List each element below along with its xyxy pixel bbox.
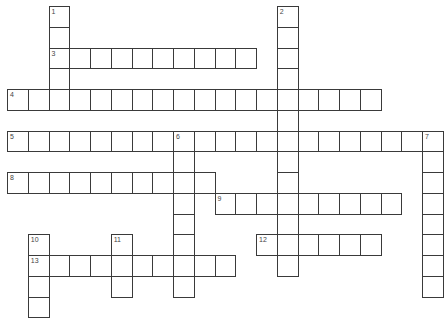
- crossword-cell[interactable]: 6: [173, 131, 195, 153]
- crossword-cell[interactable]: [132, 48, 154, 70]
- crossword-cell[interactable]: 12: [256, 234, 278, 256]
- crossword-cell[interactable]: [339, 234, 361, 256]
- crossword-cell[interactable]: [422, 234, 444, 256]
- crossword-cell[interactable]: 8: [7, 172, 29, 194]
- crossword-cell[interactable]: [318, 234, 340, 256]
- crossword-cell[interactable]: [90, 172, 112, 194]
- crossword-cell[interactable]: [256, 89, 278, 111]
- crossword-cell[interactable]: 13: [28, 255, 50, 277]
- crossword-cell[interactable]: [152, 131, 174, 153]
- crossword-cell[interactable]: [90, 89, 112, 111]
- crossword-cell[interactable]: [90, 131, 112, 153]
- crossword-cell[interactable]: [215, 131, 237, 153]
- crossword-cell[interactable]: [173, 214, 195, 236]
- crossword-cell[interactable]: [298, 234, 320, 256]
- crossword-cell[interactable]: [69, 89, 91, 111]
- crossword-cell[interactable]: [28, 89, 50, 111]
- crossword-cell[interactable]: 9: [215, 193, 237, 215]
- crossword-cell[interactable]: [256, 131, 278, 153]
- crossword-cell[interactable]: [194, 48, 216, 70]
- crossword-cell[interactable]: [256, 193, 278, 215]
- crossword-cell[interactable]: [173, 255, 195, 277]
- crossword-cell[interactable]: [173, 276, 195, 298]
- crossword-cell[interactable]: [360, 131, 382, 153]
- crossword-cell[interactable]: [235, 89, 257, 111]
- crossword-cell[interactable]: [422, 172, 444, 194]
- crossword-cell[interactable]: [69, 255, 91, 277]
- crossword-cell[interactable]: [339, 193, 361, 215]
- crossword-cell[interactable]: 2: [277, 6, 299, 28]
- crossword-cell[interactable]: [298, 131, 320, 153]
- crossword-cell[interactable]: [381, 131, 403, 153]
- crossword-cell[interactable]: [132, 89, 154, 111]
- crossword-cell[interactable]: [194, 131, 216, 153]
- crossword-cell[interactable]: [194, 172, 216, 194]
- crossword-cell[interactable]: [173, 234, 195, 256]
- crossword-cell[interactable]: [339, 89, 361, 111]
- crossword-cell[interactable]: [173, 151, 195, 173]
- crossword-cell[interactable]: [152, 89, 174, 111]
- crossword-cell[interactable]: 4: [7, 89, 29, 111]
- crossword-cell[interactable]: [111, 48, 133, 70]
- crossword-cell[interactable]: [173, 172, 195, 194]
- crossword-cell[interactable]: [422, 151, 444, 173]
- crossword-cell[interactable]: [277, 48, 299, 70]
- crossword-cell[interactable]: [360, 234, 382, 256]
- crossword-cell[interactable]: [49, 89, 71, 111]
- crossword-cell[interactable]: [298, 89, 320, 111]
- crossword-cell[interactable]: [49, 68, 71, 90]
- crossword-cell[interactable]: [422, 255, 444, 277]
- crossword-cell[interactable]: [235, 131, 257, 153]
- crossword-cell[interactable]: [132, 172, 154, 194]
- crossword-cell[interactable]: 11: [111, 234, 133, 256]
- crossword-cell[interactable]: [28, 276, 50, 298]
- crossword-cell[interactable]: [90, 48, 112, 70]
- crossword-cell[interactable]: [401, 131, 423, 153]
- crossword-cell[interactable]: [277, 89, 299, 111]
- crossword-cell[interactable]: [318, 193, 340, 215]
- crossword-cell[interactable]: 1: [49, 6, 71, 28]
- crossword-cell[interactable]: [277, 27, 299, 49]
- crossword-cell[interactable]: [132, 255, 154, 277]
- crossword-cell[interactable]: [90, 255, 112, 277]
- crossword-cell[interactable]: [111, 172, 133, 194]
- crossword-cell[interactable]: [422, 193, 444, 215]
- crossword-cell[interactable]: [111, 255, 133, 277]
- crossword-cell[interactable]: [277, 110, 299, 132]
- crossword-cell[interactable]: [318, 131, 340, 153]
- crossword-cell[interactable]: [277, 151, 299, 173]
- crossword-cell[interactable]: [215, 255, 237, 277]
- crossword-cell[interactable]: [360, 89, 382, 111]
- crossword-cell[interactable]: [152, 172, 174, 194]
- crossword-cell[interactable]: [49, 131, 71, 153]
- crossword-cell[interactable]: [339, 131, 361, 153]
- crossword-cell[interactable]: [28, 131, 50, 153]
- crossword-cell[interactable]: [381, 193, 403, 215]
- crossword-cell[interactable]: [277, 214, 299, 236]
- crossword-cell[interactable]: 10: [28, 234, 50, 256]
- crossword-cell[interactable]: [277, 68, 299, 90]
- crossword-cell[interactable]: [215, 48, 237, 70]
- crossword-cell[interactable]: [277, 234, 299, 256]
- crossword-cell[interactable]: [277, 193, 299, 215]
- crossword-cell[interactable]: 3: [49, 48, 71, 70]
- crossword-cell[interactable]: [173, 48, 195, 70]
- crossword-cell[interactable]: [28, 172, 50, 194]
- crossword-cell[interactable]: [49, 172, 71, 194]
- crossword-cell[interactable]: [298, 193, 320, 215]
- crossword-cell[interactable]: [69, 131, 91, 153]
- crossword-cell[interactable]: [111, 276, 133, 298]
- crossword-cell[interactable]: [152, 48, 174, 70]
- crossword-cell[interactable]: [173, 89, 195, 111]
- crossword-cell[interactable]: [235, 193, 257, 215]
- crossword-cell[interactable]: [152, 255, 174, 277]
- crossword-cell[interactable]: [194, 255, 216, 277]
- crossword-cell[interactable]: [277, 131, 299, 153]
- crossword-cell[interactable]: [422, 214, 444, 236]
- crossword-cell[interactable]: [422, 276, 444, 298]
- crossword-cell[interactable]: [318, 89, 340, 111]
- crossword-cell[interactable]: 5: [7, 131, 29, 153]
- crossword-cell[interactable]: [69, 172, 91, 194]
- crossword-cell[interactable]: 7: [422, 131, 444, 153]
- crossword-cell[interactable]: [132, 131, 154, 153]
